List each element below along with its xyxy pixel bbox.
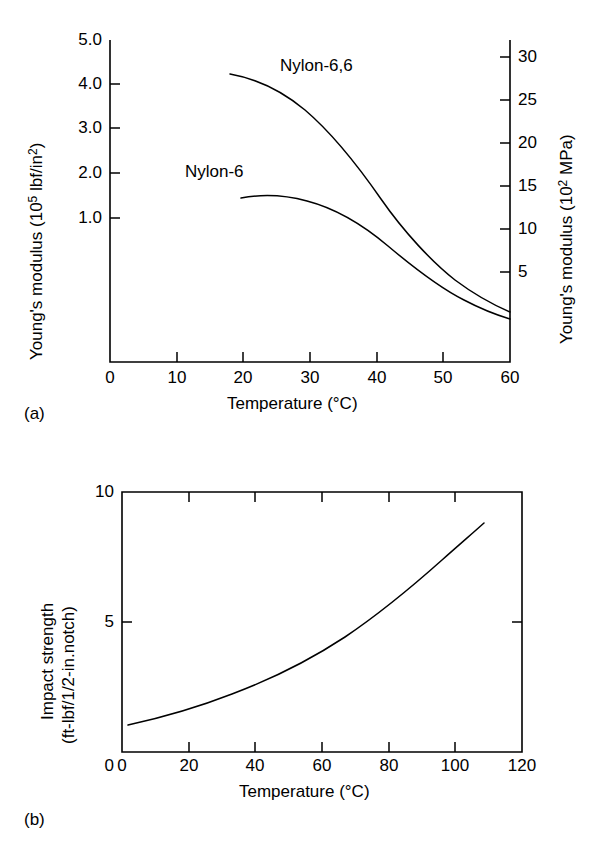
panel-b-xtick-120: 120	[504, 756, 540, 776]
panel-b-y-axis-title-line1: Impact strength	[38, 603, 58, 720]
panel-a-left-y-axis-title-post-exp: 2	[26, 148, 40, 155]
panel-b-ytick-5: 5	[76, 612, 114, 632]
panel-a-left-y-axis-title-exp: 5	[26, 196, 40, 203]
panel-a-x-axis-title-text: Temperature (°C)	[227, 394, 358, 413]
panel-a-right-ticks	[500, 57, 510, 272]
panel-a-x-ticks	[177, 352, 443, 362]
panel-a-xtick-10: 10	[163, 368, 191, 388]
panel-a-ytick-3: 3.0	[56, 118, 102, 138]
panel-a-left-y-axis-title-post: lbf/in	[27, 155, 46, 196]
panel-b-y-axis-title-line2: (ft-lbf/1/2-in.notch)	[59, 606, 79, 744]
panel-a-xtick-20: 20	[229, 368, 257, 388]
panel-a-right-ytick-25: 25	[518, 90, 548, 110]
panel-b-x-bottom-ticks	[189, 742, 455, 752]
panel-b-xtick-0: 0	[108, 756, 136, 776]
panel-b-xtick-20: 20	[175, 756, 203, 776]
panel-a-left-y-axis-title-pre: Young's modulus (10	[27, 202, 46, 360]
panel-b-axis-frame	[122, 492, 522, 752]
panel-a-right-ytick-15: 15	[518, 176, 548, 196]
figure-container: 5.0 4.0 3.0 2.0 1.0 30 25 20 15 10 5 0 1…	[0, 0, 590, 846]
curve-nylon-66	[230, 74, 510, 312]
panel-a-right-ytick-30: 30	[518, 47, 548, 67]
chart-panel-b: 10 5 0 0 20 40 60 80 100 120 Temperature…	[0, 420, 590, 846]
series-label-nylon-66: Nylon-6,6	[280, 56, 353, 76]
panel-a-right-ytick-20: 20	[518, 133, 548, 153]
panel-a-right-ytick-10: 10	[518, 219, 548, 239]
panel-a-ytick-1: 1.0	[56, 208, 102, 228]
panel-b-xtick-40: 40	[241, 756, 269, 776]
panel-b-xtick-60: 60	[308, 756, 336, 776]
panel-a-left-y-axis-title: Young's modulus (105 lbf/in2)	[26, 143, 47, 360]
panel-a-right-y-axis-title-exp: 2	[556, 180, 570, 187]
panel-a-axis-frame	[110, 40, 510, 362]
panel-b-ytick-10: 10	[76, 482, 114, 502]
panel-a-right-y-axis-title-pre: Young's modulus (10	[557, 186, 576, 344]
panel-b-tag: (b)	[24, 810, 45, 830]
panel-a-x-axis-title: Temperature (°C)	[227, 394, 358, 414]
panel-a-ytick-2: 2.0	[56, 163, 102, 183]
panel-a-xtick-40: 40	[363, 368, 391, 388]
curve-nylon-6	[241, 196, 510, 319]
panel-a-right-ytick-5: 5	[518, 262, 548, 282]
panel-b-xtick-100: 100	[437, 756, 473, 776]
panel-a-left-ticks	[110, 84, 120, 218]
panel-a-ytick-5: 5.0	[56, 30, 102, 50]
panel-a-left-y-axis-title-close: )	[27, 143, 46, 149]
curve-impact-strength	[128, 523, 484, 725]
series-label-nylon-6: Nylon-6	[185, 162, 244, 182]
panel-b-x-axis-title-text: Temperature (°C)	[239, 782, 370, 801]
panel-a-xtick-60: 60	[496, 368, 524, 388]
chart-panel-a: 5.0 4.0 3.0 2.0 1.0 30 25 20 15 10 5 0 1…	[0, 0, 590, 420]
panel-a-xtick-50: 50	[429, 368, 457, 388]
panel-a-ytick-4: 4.0	[56, 74, 102, 94]
panel-b-xtick-80: 80	[375, 756, 403, 776]
panel-a-xtick-0: 0	[96, 368, 124, 388]
panel-a-right-y-axis-title-post: MPa)	[557, 134, 576, 179]
panel-b-x-top-ticks	[189, 492, 455, 502]
panel-a-right-y-axis-title: Young's modulus (102 MPa)	[556, 134, 577, 344]
panel-a-xtick-30: 30	[296, 368, 324, 388]
panel-b-x-axis-title: Temperature (°C)	[239, 782, 370, 802]
